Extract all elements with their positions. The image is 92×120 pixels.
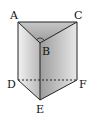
label-D: D	[7, 78, 16, 91]
label-A: A	[9, 9, 19, 22]
label-C: C	[74, 9, 82, 22]
label-E: E	[36, 103, 44, 116]
label-B: B	[42, 45, 50, 58]
label-F: F	[79, 78, 87, 91]
prism-diagram: A C B D F E	[0, 0, 92, 120]
